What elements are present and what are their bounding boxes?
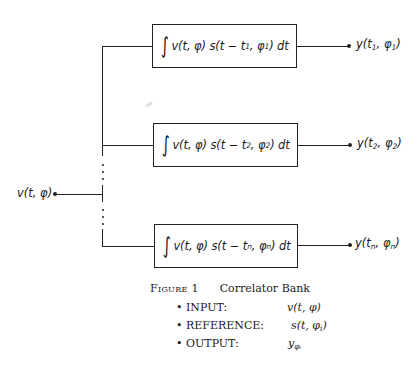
input-line xyxy=(55,194,103,195)
bus-dot xyxy=(102,178,104,180)
branch-line-1 xyxy=(102,46,153,47)
correlator-box-n: ∫ v(t, φ) s(t − tn, φn) dt xyxy=(154,224,298,268)
caption-item-output: • OUTPUT: xyxy=(176,337,239,350)
bus-dot xyxy=(102,209,104,211)
caption-value-output: yφᵢ xyxy=(288,337,301,351)
integral-icon: ∫ xyxy=(162,134,170,156)
bus-segment-top xyxy=(102,46,103,156)
bus-segment-bottom xyxy=(102,229,103,247)
branch-line-2 xyxy=(102,145,154,146)
output-node-1 xyxy=(347,44,351,48)
integral-icon: ∫ xyxy=(163,235,171,257)
correlator-formula-2: ∫ v(t, φ) s(t − t2, φ2) dt xyxy=(160,134,290,156)
bus-segment-middle xyxy=(102,185,103,202)
caption-item-input: • INPUT: xyxy=(176,301,227,314)
figure-title: Correlator Bank xyxy=(220,282,310,295)
output-line-1 xyxy=(297,46,349,47)
input-label: v(t, φ) xyxy=(17,186,52,200)
figure-label: Figure 1 xyxy=(150,282,199,295)
scan-artifact xyxy=(145,101,153,108)
caption-item-reference: • REFERENCE: xyxy=(176,319,264,332)
output-node-n xyxy=(348,243,352,247)
output-line-2 xyxy=(298,145,350,146)
integral-icon: ∫ xyxy=(161,35,169,57)
output-node-2 xyxy=(348,143,352,147)
correlator-box-1: ∫ v(t, φ) s(t − t1, φ1) dt xyxy=(152,24,297,68)
bus-dot xyxy=(102,223,104,225)
bus-dot xyxy=(102,164,104,166)
correlator-box-2: ∫ v(t, φ) s(t − t2, φ2) dt xyxy=(153,123,298,167)
output-label-1: y(t1, φ1) xyxy=(356,37,401,52)
output-label-2: y(t2, φ2) xyxy=(357,136,402,151)
figure-caption: Figure 1 Correlator Bank xyxy=(150,282,310,295)
caption-value-input: v(t, φ) xyxy=(287,301,321,314)
output-line-n xyxy=(298,245,350,246)
branch-line-n xyxy=(102,246,155,247)
correlator-formula-1: ∫ v(t, φ) s(t − t1, φ1) dt xyxy=(159,35,289,57)
caption-value-reference: s(t, φi) xyxy=(291,319,327,333)
bus-dot xyxy=(102,216,104,218)
output-label-n: y(tn, φn) xyxy=(355,236,400,251)
correlator-formula-n: ∫ v(t, φ) s(t − tn, φn) dt xyxy=(161,235,291,257)
bus-dot xyxy=(102,171,104,173)
